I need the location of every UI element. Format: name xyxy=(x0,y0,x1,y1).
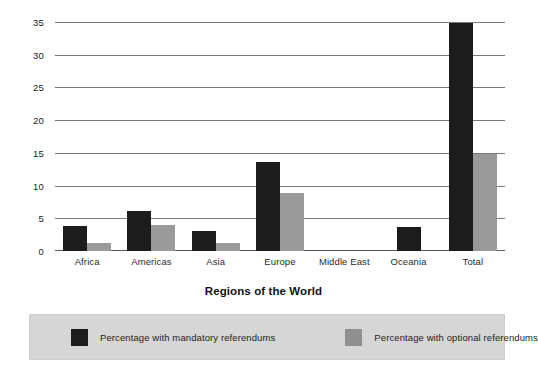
bar-group-americas xyxy=(119,22,183,251)
bar-group-total xyxy=(441,22,505,251)
y-tick-15: 15 xyxy=(33,147,44,158)
x-tick-americas: Americas xyxy=(119,256,183,267)
bar-total-optional xyxy=(473,154,497,251)
legend-item-optional: Percentage with optional referendums xyxy=(345,329,538,346)
bar-group-oceania xyxy=(376,22,440,251)
y-axis-tick-labels: 35 30 25 20 15 10 5 0 xyxy=(0,22,50,251)
x-tick-asia: Asia xyxy=(184,256,248,267)
bar-total-mandatory xyxy=(449,23,473,251)
legend-swatch-mandatory-icon xyxy=(71,329,88,346)
x-tick-oceania: Oceania xyxy=(376,256,440,267)
y-tick-25: 25 xyxy=(33,82,44,93)
x-tick-europe: Europe xyxy=(248,256,312,267)
bar-oceania-mandatory xyxy=(397,227,421,251)
y-tick-0: 0 xyxy=(39,246,44,257)
legend-item-mandatory: Percentage with mandatory referendums xyxy=(71,329,275,346)
legend-swatch-optional-icon xyxy=(345,329,362,346)
legend-label-mandatory: Percentage with mandatory referendums xyxy=(100,332,275,343)
bar-asia-mandatory xyxy=(192,231,216,251)
bar-group-middle-east xyxy=(312,22,376,251)
bar-europe-mandatory xyxy=(256,162,280,251)
bar-americas-mandatory xyxy=(127,211,151,251)
bar-africa-mandatory xyxy=(63,226,87,251)
bar-africa-optional xyxy=(87,243,111,251)
x-tick-total: Total xyxy=(441,256,505,267)
bar-europe-optional xyxy=(280,193,304,251)
bar-group-africa xyxy=(55,22,119,251)
y-tick-30: 30 xyxy=(33,49,44,60)
x-tick-middle-east: Middle East xyxy=(312,256,376,267)
x-axis-tick-labels: Africa Americas Asia Europe Middle East … xyxy=(55,256,505,267)
x-tick-africa: Africa xyxy=(55,256,119,267)
y-tick-10: 10 xyxy=(33,180,44,191)
chart-legend: Percentage with mandatory referendums Pe… xyxy=(29,314,505,360)
bar-asia-optional xyxy=(216,243,240,251)
y-tick-35: 35 xyxy=(33,17,44,28)
x-axis-title: Regions of the World xyxy=(0,285,527,297)
bar-group-europe xyxy=(248,22,312,251)
bar-groups xyxy=(55,22,505,251)
y-tick-5: 5 xyxy=(39,213,44,224)
bar-group-asia xyxy=(184,22,248,251)
y-tick-20: 20 xyxy=(33,115,44,126)
legend-label-optional: Percentage with optional referendums xyxy=(374,332,538,343)
bar-americas-optional xyxy=(151,225,175,251)
